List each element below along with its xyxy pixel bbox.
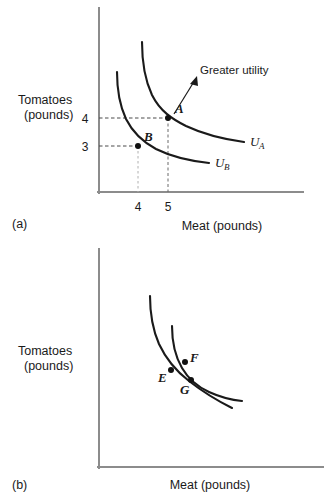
panel-a-y-axis-label-line1: Tomatoes xyxy=(18,93,72,107)
panel-a-curve-label-ua-sub: A xyxy=(258,141,265,151)
panel-a-point-label-a: A xyxy=(174,101,184,116)
panel-a: Tomatoes (pounds) 4 3 4 5 Meat (pounds) … xyxy=(12,8,303,233)
panel-b-point-label-g: G xyxy=(180,382,190,397)
figure-indifference-curves: Tomatoes (pounds) 4 3 4 5 Meat (pounds) … xyxy=(0,0,335,502)
panel-b-y-axis-label-line1: Tomatoes xyxy=(18,344,72,358)
panel-b-x-axis-label: Meat (pounds) xyxy=(170,478,251,492)
panel-b-point-e-marker xyxy=(168,367,174,373)
panel-a-label: (a) xyxy=(12,217,27,231)
panel-b-point-label-f: F xyxy=(189,350,199,365)
panel-a-y-axis-label-line2: (pounds) xyxy=(24,108,73,122)
panel-b-point-f-marker xyxy=(182,359,188,365)
panel-a-point-b-marker xyxy=(135,143,141,149)
panel-a-curve-ua xyxy=(142,42,244,142)
panel-b-point-label-e: E xyxy=(157,370,167,385)
greater-utility-annotation: Greater utility xyxy=(200,64,269,76)
panel-a-ytick-3: 3 xyxy=(82,140,89,154)
panel-a-x-axis-label: Meat (pounds) xyxy=(182,219,263,233)
panel-a-curve-label-ub-sub: B xyxy=(224,162,230,172)
panel-b: Tomatoes (pounds) E F G Meat (pounds) (b… xyxy=(12,249,323,492)
panel-a-point-label-b: B xyxy=(143,129,153,144)
panel-b-label: (b) xyxy=(12,478,27,492)
panel-a-ytick-4: 4 xyxy=(82,112,89,126)
figure-svg: Tomatoes (pounds) 4 3 4 5 Meat (pounds) … xyxy=(0,0,335,502)
greater-utility-arrow-head xyxy=(190,76,198,86)
panel-a-xtick-4: 4 xyxy=(135,200,142,214)
panel-b-y-axis-label-line2: (pounds) xyxy=(24,359,73,373)
panel-a-xtick-5: 5 xyxy=(165,200,172,214)
panel-a-point-a-marker xyxy=(165,115,171,121)
